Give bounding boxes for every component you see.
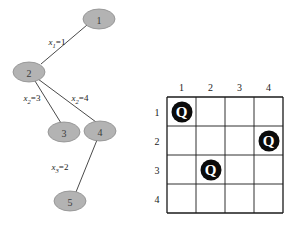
tree-node-3[interactable] [48, 122, 80, 142]
tree-edge-label-x3=2: x3=2 [52, 162, 69, 174]
board-column-header-3: 3 [237, 82, 242, 93]
board-column-header-1: 1 [179, 82, 184, 93]
tree-node-4[interactable] [84, 121, 116, 141]
board-row-header-4: 4 [155, 193, 160, 204]
board-row-header-2: 2 [155, 135, 160, 146]
tree-edge-label-x2=3: x2=3 [24, 93, 41, 105]
tree-edge-label-x1=1: x1=1 [49, 37, 66, 49]
board-row-header-3: 3 [155, 164, 160, 175]
queen-piece-r3-c2[interactable]: Q [200, 159, 221, 180]
tree-edge-4-5 [76, 140, 97, 192]
board-row-header-1: 1 [155, 106, 160, 117]
tree-edge-label-x2=4: x2=4 [72, 93, 89, 105]
tree-node-2[interactable] [13, 62, 45, 82]
edge-label-value: 1 [61, 37, 66, 47]
edge-label-value: 4 [84, 93, 89, 103]
tree-node-1[interactable] [83, 9, 115, 29]
queen-piece-r1-c1[interactable]: Q [171, 101, 192, 122]
edge-label-value: 3 [36, 93, 41, 103]
board-column-header-2: 2 [208, 82, 213, 93]
search-tree-and-chessboard-figure [0, 0, 298, 227]
board-column-header-4: 4 [266, 82, 271, 93]
edge-label-value: 2 [64, 162, 69, 172]
queen-piece-r2-c4[interactable]: Q [258, 130, 279, 151]
tree-node-5[interactable] [54, 191, 86, 211]
